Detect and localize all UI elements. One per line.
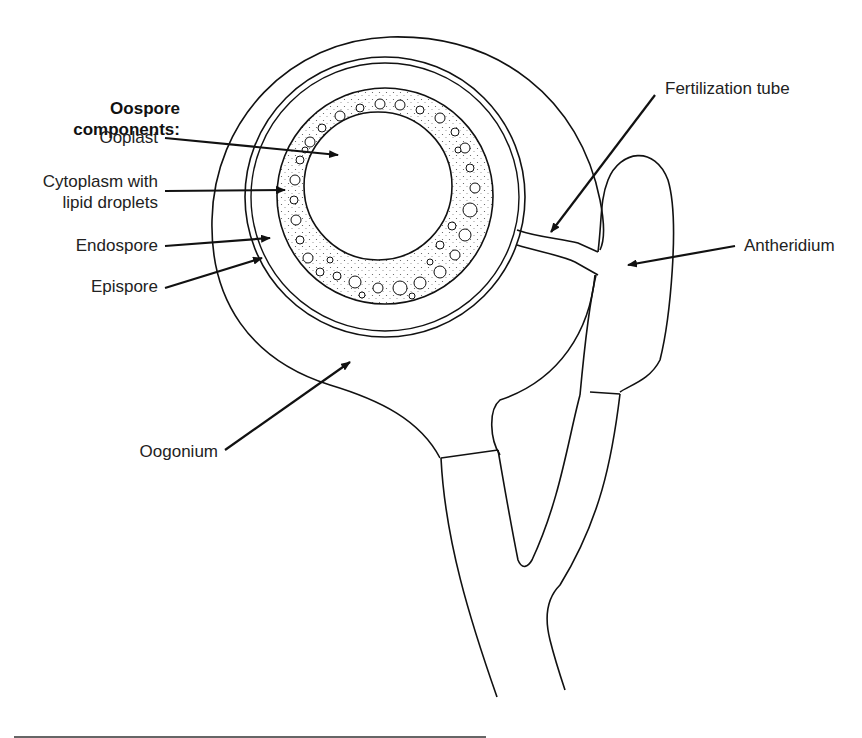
oogonium-septum <box>441 450 498 458</box>
arrow-fertilization-tube <box>551 95 655 232</box>
heading-line-1: Oospore <box>60 98 180 119</box>
oogonium-stalk <box>441 458 497 697</box>
antheridium-outline <box>598 156 673 392</box>
label-epispore: Epispore <box>30 277 158 297</box>
ooplast <box>304 112 452 260</box>
label-ooplast: Ooplast <box>60 128 158 148</box>
arrow-cytoplasm <box>165 190 285 191</box>
arrow-antheridium <box>628 246 735 265</box>
label-fertilization-tube: Fertilization tube <box>665 79 790 99</box>
antheridial-stalk <box>547 394 620 690</box>
label-oogonium: Oogonium <box>60 442 218 462</box>
antheridium-septum <box>590 392 620 394</box>
label-antheridium: Antheridium <box>744 236 835 256</box>
label-endospore: Endospore <box>30 236 158 256</box>
arrow-epispore <box>165 258 262 288</box>
label-cytoplasm-line-1: Cytoplasm with <box>10 172 158 192</box>
arrow-oogonium <box>225 362 350 450</box>
label-cytoplasm-line-2: lipid droplets <box>10 193 158 213</box>
